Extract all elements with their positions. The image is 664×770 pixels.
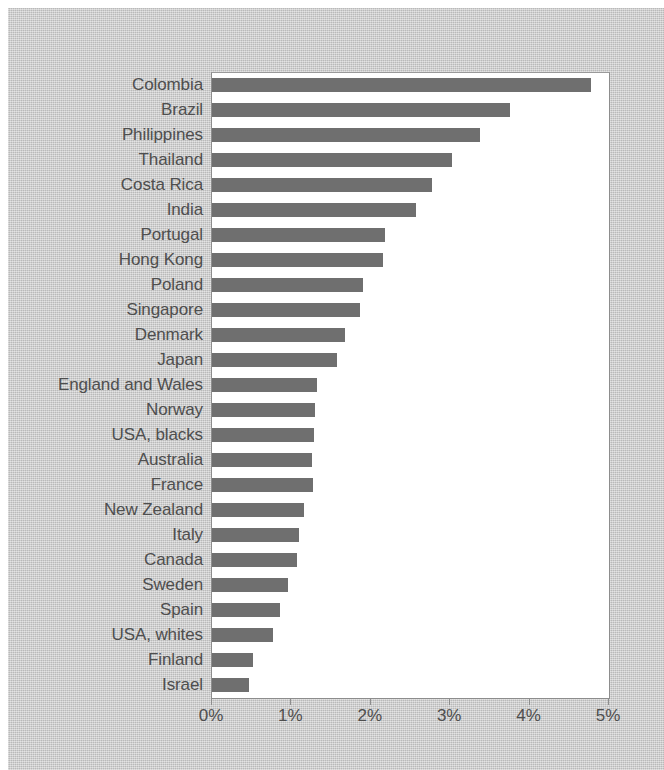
x-axis-tick-mark bbox=[370, 698, 371, 705]
y-axis-tick: USA, blacks bbox=[8, 422, 205, 447]
bar-row bbox=[212, 598, 609, 623]
y-axis-tick-label: Italy bbox=[172, 526, 205, 543]
y-axis-tick: Costa Rica bbox=[8, 172, 205, 197]
y-axis-tick-label: Hong Kong bbox=[119, 251, 205, 268]
y-axis-tick: Finland bbox=[8, 647, 205, 672]
x-axis-tick-label: 4% bbox=[516, 707, 541, 724]
x-axis: 0%1%2%3%4%5% bbox=[211, 698, 610, 738]
bar-row bbox=[212, 473, 609, 498]
bar bbox=[212, 653, 253, 667]
y-axis-tick-label: Brazil bbox=[161, 101, 205, 118]
y-axis-tick-label: Norway bbox=[146, 401, 205, 418]
bar bbox=[212, 178, 432, 192]
bar bbox=[212, 353, 337, 367]
y-axis-tick: New Zealand bbox=[8, 497, 205, 522]
x-axis-tick-label: 1% bbox=[278, 707, 303, 724]
y-axis-tick: Italy bbox=[8, 522, 205, 547]
bar-row bbox=[212, 148, 609, 173]
bar bbox=[212, 328, 345, 342]
bar-row bbox=[212, 623, 609, 648]
y-axis-tick: India bbox=[8, 197, 205, 222]
bar bbox=[212, 453, 312, 467]
y-axis-tick-label: Poland bbox=[151, 276, 205, 293]
y-axis-tick: Israel bbox=[8, 672, 205, 697]
y-axis-tick: England and Wales bbox=[8, 372, 205, 397]
y-axis-tick-label: Finland bbox=[148, 651, 205, 668]
x-axis-tick-mark bbox=[608, 698, 609, 705]
bar bbox=[212, 103, 510, 117]
bar bbox=[212, 278, 363, 292]
y-axis-tick-label: India bbox=[167, 201, 205, 218]
bar-row bbox=[212, 423, 609, 448]
bar bbox=[212, 578, 288, 592]
y-axis-tick: Australia bbox=[8, 447, 205, 472]
y-axis-tick: Norway bbox=[8, 397, 205, 422]
plot-area bbox=[211, 72, 610, 699]
y-axis-tick-label: USA, whites bbox=[112, 626, 206, 643]
y-axis-tick-label: England and Wales bbox=[58, 376, 205, 393]
bar bbox=[212, 478, 313, 492]
bar bbox=[212, 153, 452, 167]
bar-row bbox=[212, 398, 609, 423]
bar-row bbox=[212, 298, 609, 323]
y-axis-tick: USA, whites bbox=[8, 622, 205, 647]
y-axis-tick: Hong Kong bbox=[8, 247, 205, 272]
x-axis-tick-mark bbox=[529, 698, 530, 705]
bar bbox=[212, 628, 273, 642]
y-axis-tick: Portugal bbox=[8, 222, 205, 247]
bar bbox=[212, 503, 304, 517]
bar-row bbox=[212, 73, 609, 98]
y-axis-tick-label: Israel bbox=[162, 676, 205, 693]
bar-row bbox=[212, 248, 609, 273]
chart-figure: ColombiaBrazilPhilippinesThailandCosta R… bbox=[8, 8, 664, 770]
x-axis-tick-mark bbox=[449, 698, 450, 705]
y-axis-tick-label: Philippines bbox=[122, 126, 205, 143]
bar bbox=[212, 378, 317, 392]
y-axis-tick-label: Denmark bbox=[135, 326, 205, 343]
y-axis-tick-label: Canada bbox=[144, 551, 205, 568]
y-axis-tick: Poland bbox=[8, 272, 205, 297]
y-axis-tick: Thailand bbox=[8, 147, 205, 172]
bar-row bbox=[212, 198, 609, 223]
y-axis-tick: Denmark bbox=[8, 322, 205, 347]
y-axis-tick-label: Sweden bbox=[142, 576, 205, 593]
y-axis-tick-label: Australia bbox=[138, 451, 205, 468]
bar-row bbox=[212, 223, 609, 248]
bar bbox=[212, 303, 360, 317]
bar-row bbox=[212, 98, 609, 123]
bar-row bbox=[212, 648, 609, 673]
bar-row bbox=[212, 523, 609, 548]
bar-row bbox=[212, 498, 609, 523]
bar bbox=[212, 128, 480, 142]
x-axis-tick-label: 2% bbox=[358, 707, 383, 724]
bar bbox=[212, 528, 299, 542]
bar bbox=[212, 203, 416, 217]
bar-row bbox=[212, 373, 609, 398]
y-axis-category-labels: ColombiaBrazilPhilippinesThailandCosta R… bbox=[8, 72, 205, 697]
x-axis-tick-mark bbox=[211, 698, 212, 705]
y-axis-tick: France bbox=[8, 472, 205, 497]
bar-row bbox=[212, 673, 609, 698]
y-axis-tick-label: Spain bbox=[160, 601, 205, 618]
y-axis-tick-label: Singapore bbox=[126, 301, 205, 318]
y-axis-tick-label: New Zealand bbox=[104, 501, 205, 518]
x-axis-tick-label: 0% bbox=[199, 707, 224, 724]
y-axis-tick: Singapore bbox=[8, 297, 205, 322]
bar-row bbox=[212, 273, 609, 298]
x-axis-tick-mark bbox=[290, 698, 291, 705]
x-axis-tick-label: 5% bbox=[596, 707, 621, 724]
y-axis-tick: Japan bbox=[8, 347, 205, 372]
bar bbox=[212, 228, 385, 242]
y-axis-tick: Spain bbox=[8, 597, 205, 622]
bar-row bbox=[212, 323, 609, 348]
bar bbox=[212, 78, 591, 92]
bar bbox=[212, 553, 297, 567]
bar-row bbox=[212, 448, 609, 473]
y-axis-tick: Canada bbox=[8, 547, 205, 572]
y-axis-tick-label: Costa Rica bbox=[121, 176, 205, 193]
bar-row bbox=[212, 173, 609, 198]
bar bbox=[212, 678, 249, 692]
y-axis-tick-label: Japan bbox=[157, 351, 205, 368]
bar-row bbox=[212, 573, 609, 598]
y-axis-tick: Colombia bbox=[8, 72, 205, 97]
